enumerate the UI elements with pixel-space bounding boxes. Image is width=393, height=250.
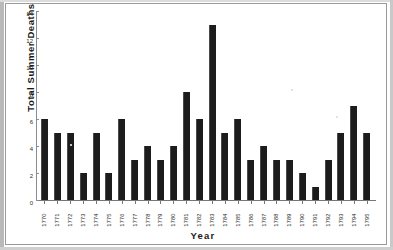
x-tick-slot: 1785 [231, 201, 244, 229]
x-tick-label: 1770 [41, 213, 47, 226]
scan-frame-left [0, 0, 4, 250]
x-tick-mark [122, 201, 123, 204]
y-axis-tick: 10 [26, 56, 36, 74]
bar-slot [193, 11, 206, 200]
x-tick-slot: 1794 [347, 201, 360, 229]
chart-figure: Total Summer Deaths Year 02468101214 177… [0, 0, 393, 250]
x-tick-label: 1794 [351, 213, 357, 226]
bar-slot [38, 11, 51, 200]
scan-frame-top [0, 0, 393, 2]
bar-slot [167, 11, 180, 200]
bar-slot [64, 11, 77, 200]
x-tick-slot: 1784 [218, 201, 231, 229]
scan-speckle [70, 144, 72, 146]
bar [54, 133, 61, 201]
x-tick-label: 1789 [286, 213, 292, 226]
x-tick-slot: 1788 [270, 201, 283, 229]
bar-slot [334, 11, 347, 200]
bar-slot [322, 11, 335, 200]
x-tick-label: 1780 [170, 213, 176, 226]
bar [299, 173, 306, 200]
x-tick-label: 1788 [273, 213, 279, 226]
bar [105, 173, 112, 200]
x-tick-mark [289, 201, 290, 204]
x-tick-label: 1779 [157, 213, 163, 226]
bar [247, 160, 254, 201]
bar-slot [180, 11, 193, 200]
x-tick-slot: 1777 [128, 201, 141, 229]
x-tick-slot: 1776 [115, 201, 128, 229]
bar [41, 119, 48, 200]
x-tick-label: 1773 [80, 213, 86, 226]
x-tick-mark [83, 201, 84, 204]
x-tick-mark [44, 201, 45, 204]
bar-slot [154, 11, 167, 200]
x-tick-label: 1776 [119, 213, 125, 226]
x-tick-slot: 1773 [77, 201, 90, 229]
x-tick-label: 1781 [183, 213, 189, 226]
bar-slot [244, 11, 257, 200]
y-tick-label: 14 [26, 11, 36, 17]
x-tick-label: 1792 [325, 213, 331, 226]
x-tick-label: 1793 [338, 213, 344, 226]
bar-slot [283, 11, 296, 200]
x-tick-slot: 1786 [244, 201, 257, 229]
bar [221, 133, 228, 201]
x-tick-mark [70, 201, 71, 204]
x-tick-mark [251, 201, 252, 204]
x-tick-label: 1790 [299, 213, 305, 226]
x-tick-label: 1775 [106, 213, 112, 226]
x-axis-ticks: 1770177117721773177417751776177717781779… [36, 201, 375, 229]
x-tick-mark [160, 201, 161, 204]
x-tick-slot: 1795 [360, 201, 373, 229]
x-tick-label: 1784 [222, 213, 228, 226]
x-tick-mark [109, 201, 110, 204]
bar-slot [360, 11, 373, 200]
x-tick-slot: 1781 [180, 201, 193, 229]
x-tick-slot: 1791 [309, 201, 322, 229]
bar [170, 146, 177, 200]
x-tick-slot: 1774 [90, 201, 103, 229]
x-tick-slot: 1780 [167, 201, 180, 229]
bar [209, 25, 216, 201]
x-tick-slot: 1778 [141, 201, 154, 229]
x-tick-mark [276, 201, 277, 204]
bar [337, 133, 344, 201]
bar [325, 160, 332, 201]
x-tick-mark [328, 201, 329, 204]
bar [131, 160, 138, 201]
bar-slot [141, 11, 154, 200]
bar-series [36, 11, 375, 200]
bar-slot [347, 11, 360, 200]
bar-slot [90, 11, 103, 200]
bar-slot [102, 11, 115, 200]
x-tick-label: 1786 [248, 213, 254, 226]
bar [157, 160, 164, 201]
x-tick-mark [135, 201, 136, 204]
plot-area: 02468101214 [36, 11, 375, 200]
x-tick-label: 1774 [93, 213, 99, 226]
bar [196, 119, 203, 200]
y-tick-label: 10 [26, 65, 36, 71]
x-tick-slot: 1779 [154, 201, 167, 229]
x-tick-label: 1787 [261, 213, 267, 226]
x-tick-slot: 1783 [206, 201, 219, 229]
x-tick-mark [225, 201, 226, 204]
x-tick-mark [96, 201, 97, 204]
bar [67, 133, 74, 201]
x-tick-slot: 1771 [51, 201, 64, 229]
bar-slot [231, 11, 244, 200]
x-tick-slot: 1787 [257, 201, 270, 229]
x-tick-mark [341, 201, 342, 204]
x-tick-mark [212, 201, 213, 204]
x-tick-label: 1783 [209, 213, 215, 226]
x-tick-slot: 1772 [64, 201, 77, 229]
bar-slot [270, 11, 283, 200]
x-tick-slot: 1770 [38, 201, 51, 229]
bar-slot [77, 11, 90, 200]
x-tick-label: 1785 [235, 213, 241, 226]
bar [363, 133, 370, 201]
x-tick-mark [302, 201, 303, 204]
x-tick-label: 1778 [145, 213, 151, 226]
x-tick-mark [173, 201, 174, 204]
